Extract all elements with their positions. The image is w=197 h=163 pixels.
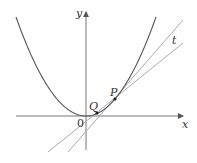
parabola-tangent-diagram: y x 0 Q P t [0, 0, 197, 163]
point-p-label: P [109, 86, 118, 99]
point-q-label: Q [89, 100, 98, 113]
origin-label: 0 [77, 117, 84, 130]
tangent-label: t [172, 34, 177, 47]
secant-line-pq [68, 20, 183, 152]
y-axis-label: y [75, 7, 83, 20]
x-axis-label: x [182, 118, 189, 131]
